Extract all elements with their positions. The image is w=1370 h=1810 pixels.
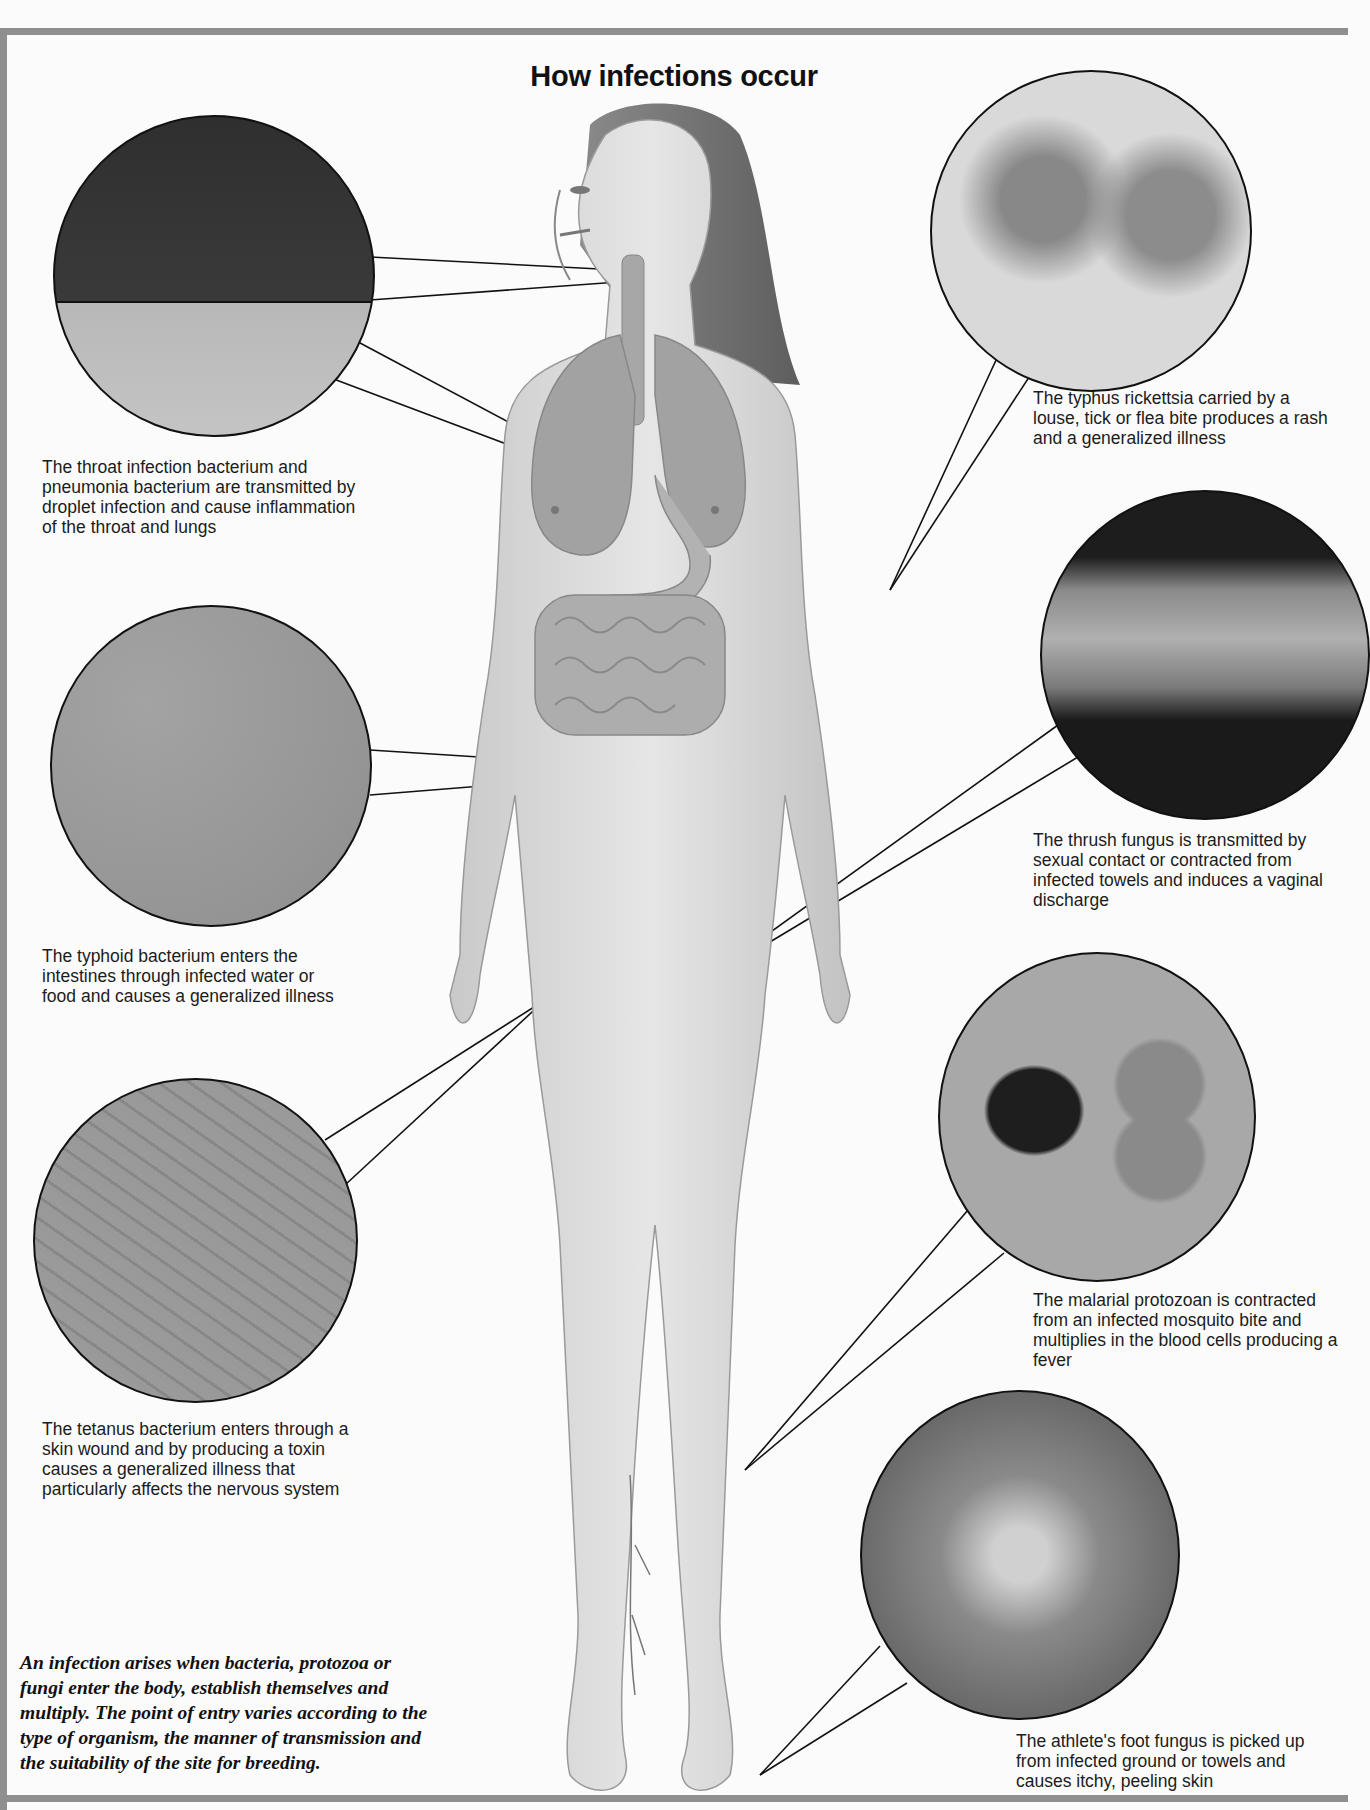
caption-typhus: The typhus rickettsia carried by a louse… [1033,388,1338,448]
human-figure [440,95,920,1810]
caption-athletes-foot: The athlete's foot fungus is picked up f… [1016,1731,1336,1791]
caption-tetanus: The tetanus bacterium enters through a s… [42,1419,352,1499]
micrograph-malaria [938,952,1256,1282]
caption-throat-pneumonia: The throat infection bacterium and pneum… [42,457,362,537]
caption-thrush: The thrush fungus is transmitted by sexu… [1033,830,1345,910]
micrograph-typhoid [50,605,372,927]
micrograph-typhus [930,70,1252,392]
intro-paragraph: An infection arises when bacteria, proto… [20,1650,430,1775]
caption-malaria: The malarial protozoan is contracted fro… [1033,1290,1345,1370]
micrograph-thrush [1040,490,1370,820]
micrograph-throat-pneumonia [53,115,375,437]
micrograph-athletes-foot [860,1390,1180,1720]
intestines [535,595,725,735]
micrograph-tetanus [33,1078,358,1403]
caption-typhoid: The typhoid bacterium enters the intesti… [42,946,342,1006]
